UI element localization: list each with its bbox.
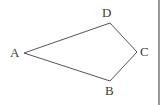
vertex-label-a: A bbox=[10, 46, 19, 59]
quadrilateral-abcd-outline bbox=[24, 23, 137, 81]
geometry-figure: A D C B bbox=[0, 0, 166, 105]
vertex-label-d: D bbox=[102, 6, 111, 19]
vertex-label-c: C bbox=[140, 45, 149, 58]
vertex-label-b: B bbox=[105, 84, 114, 97]
vertical-divider-rule bbox=[158, 0, 160, 105]
